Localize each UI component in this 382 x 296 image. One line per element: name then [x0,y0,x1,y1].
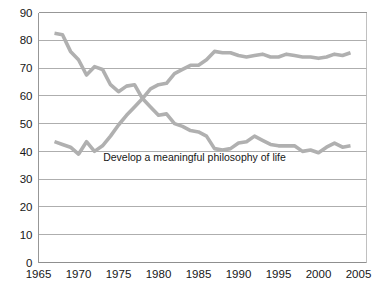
x-tick-label-1980: 1980 [146,268,172,280]
chart-container: 0102030405060708090 19651970197519801985… [0,0,382,296]
data-series [55,33,351,154]
series-line-0 [55,33,351,152]
line-chart: 0102030405060708090 19651970197519801985… [0,0,382,296]
y-tick-label-30: 30 [20,173,33,185]
annotation-0: Develop a meaningful philosophy of life [103,151,286,163]
x-tick-label-1965: 1965 [26,268,52,280]
y-tick-label-10: 10 [20,229,33,241]
x-tick-label-2005: 2005 [346,268,372,280]
x-tick-label-1995: 1995 [266,268,292,280]
y-axis-tick-labels: 0102030405060708090 [20,7,33,269]
x-axis-tick-labels: 196519701975198019851990199520002005 [26,268,372,280]
y-tick-label-40: 40 [20,146,33,158]
y-tick-label-90: 90 [20,7,33,19]
y-tick-label-20: 20 [20,201,33,213]
y-tick-label-80: 80 [20,34,33,46]
x-tick-label-1970: 1970 [66,268,92,280]
x-tick-label-2000: 2000 [306,268,332,280]
x-tick-label-1985: 1985 [186,268,212,280]
y-tick-label-70: 70 [20,62,33,74]
plot-frame [39,13,367,263]
x-tick-label-1990: 1990 [226,268,252,280]
series-annotations: Develop a meaningful philosophy of life [103,151,286,163]
y-tick-label-60: 60 [20,90,33,102]
x-tick-label-1975: 1975 [106,268,132,280]
y-tick-label-50: 50 [20,118,33,130]
